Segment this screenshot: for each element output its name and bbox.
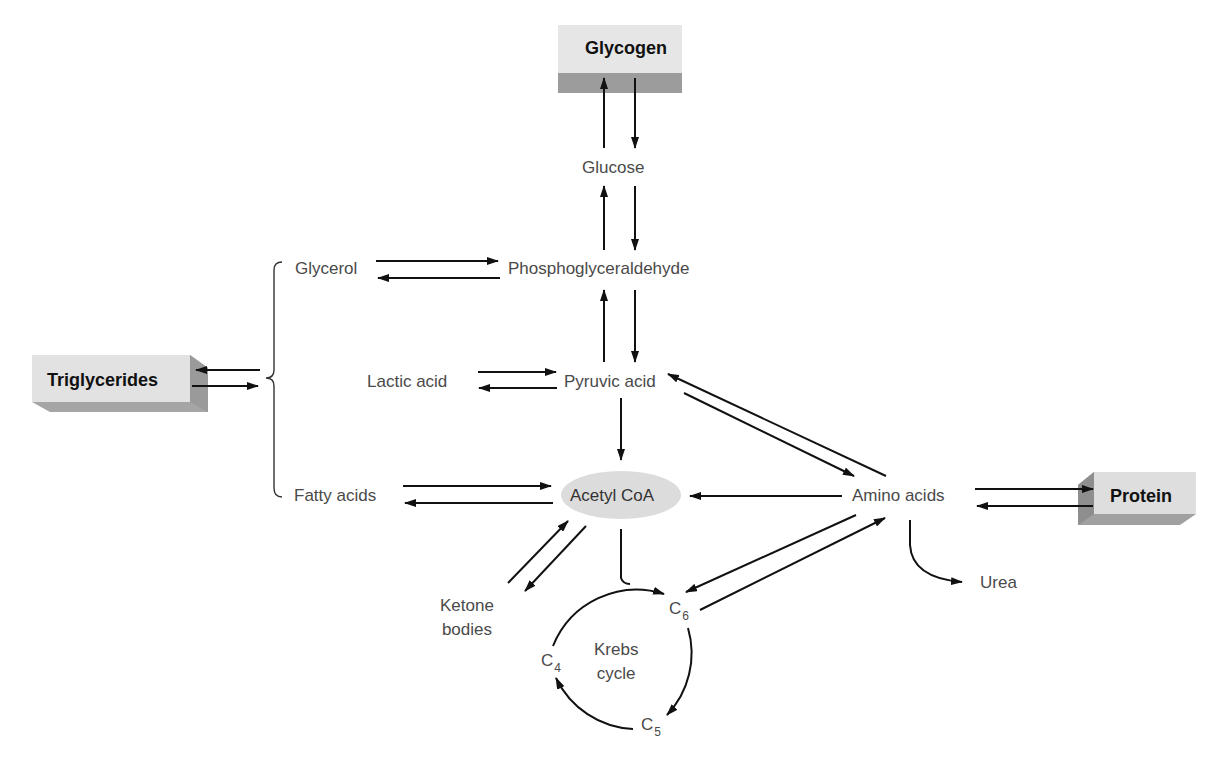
c6-label: C6 bbox=[669, 600, 689, 617]
amino-acids-label: Amino acids bbox=[852, 487, 945, 504]
c5-text: C bbox=[641, 715, 653, 734]
bracket bbox=[266, 262, 282, 497]
glycerol-label: Glycerol bbox=[295, 260, 357, 277]
c4-subscript: 4 bbox=[554, 661, 561, 675]
triglycerides-label: Triglycerides bbox=[47, 371, 158, 389]
urea-label: Urea bbox=[980, 574, 1017, 591]
c5-subscript: 5 bbox=[654, 725, 661, 739]
pyruvic-acid-label: Pyruvic acid bbox=[564, 373, 656, 390]
c4-text: C bbox=[541, 651, 553, 670]
glucose-label: Glucose bbox=[582, 159, 644, 176]
ketone-bodies-label: Ketone bodies bbox=[440, 594, 494, 642]
fatty-acids-label: Fatty acids bbox=[294, 487, 376, 504]
protein-label: Protein bbox=[1110, 487, 1172, 505]
krebs-cycle-label: Krebs cycle bbox=[594, 638, 638, 686]
ketone-line1: Ketone bbox=[440, 596, 494, 615]
c5-label: C5 bbox=[641, 716, 661, 733]
acetyl-coa-label: Acetyl CoA bbox=[570, 487, 654, 504]
c6-subscript: 6 bbox=[682, 609, 689, 623]
c6-text: C bbox=[669, 599, 681, 618]
krebs-line1: Krebs bbox=[594, 640, 638, 659]
c4-label: C4 bbox=[541, 652, 561, 669]
lactic-acid-label: Lactic acid bbox=[367, 373, 447, 390]
krebs-line2: cycle bbox=[597, 664, 636, 683]
glycogen-label: Glycogen bbox=[585, 39, 667, 57]
ketone-line2: bodies bbox=[442, 620, 492, 639]
phosphoglyceraldehyde-label: Phosphoglyceraldehyde bbox=[508, 260, 689, 277]
metabolism-diagram: Glycogen Triglycerides Protein Glucose G… bbox=[0, 0, 1224, 768]
glycogen-box bbox=[558, 25, 682, 93]
